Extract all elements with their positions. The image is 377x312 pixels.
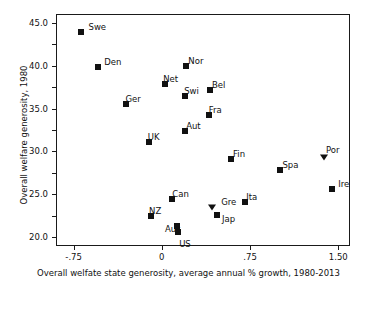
x-tick bbox=[250, 246, 251, 250]
y-tick-label: 40.0 bbox=[29, 61, 48, 71]
data-point-label: US bbox=[179, 240, 191, 249]
x-tick bbox=[74, 246, 75, 250]
y-tick-label: 25.0 bbox=[29, 189, 48, 199]
data-point-label: UK bbox=[148, 133, 160, 142]
data-point-label: Swi bbox=[184, 87, 199, 96]
y-tick bbox=[52, 130, 56, 131]
data-point-label: Bel bbox=[212, 81, 225, 90]
data-point-marker bbox=[78, 29, 84, 35]
y-tick bbox=[52, 66, 56, 67]
data-point-label: Jap bbox=[222, 215, 235, 224]
x-axis-title: Overall welfate state generosity, averag… bbox=[0, 268, 377, 278]
data-point-marker bbox=[95, 64, 101, 70]
data-point-label: Ire bbox=[338, 180, 349, 189]
data-point-label: Spa bbox=[282, 161, 298, 170]
x-tick-label: .75 bbox=[243, 252, 257, 262]
y-tick-label: 20.0 bbox=[29, 232, 48, 242]
y-tick-label: 45.0 bbox=[29, 18, 48, 28]
scatter-chart: SweDenNorNetSwiBelGerFraAutUKFinSpaPorIr… bbox=[0, 0, 377, 312]
y-tick bbox=[52, 87, 56, 88]
data-point-label: Ger bbox=[125, 95, 140, 104]
y-tick-label: 30.0 bbox=[29, 146, 48, 156]
data-point-label: Fin bbox=[233, 150, 245, 159]
data-point-marker bbox=[208, 205, 216, 211]
plot-area: SweDenNorNetSwiBelGerFraAutUKFinSpaPorIr… bbox=[56, 14, 350, 246]
data-point-label: Nor bbox=[188, 57, 203, 66]
plot-points-layer: SweDenNorNetSwiBelGerFraAutUKFinSpaPorIr… bbox=[57, 15, 349, 245]
data-point-label: Aut bbox=[186, 122, 201, 131]
data-point-label: Can bbox=[172, 190, 189, 199]
data-point-label: Fra bbox=[209, 106, 222, 115]
data-point-marker bbox=[320, 154, 328, 160]
y-tick bbox=[52, 216, 56, 217]
data-point-label: Ita bbox=[246, 193, 257, 202]
y-tick-label: 35.0 bbox=[29, 104, 48, 114]
y-tick bbox=[52, 109, 56, 110]
data-point-marker bbox=[329, 186, 335, 192]
x-tick bbox=[338, 246, 339, 250]
x-tick-label: -.75 bbox=[65, 252, 82, 262]
y-tick bbox=[52, 44, 56, 45]
y-tick bbox=[52, 173, 56, 174]
data-point-marker bbox=[175, 229, 181, 235]
data-point-label: NZ bbox=[149, 207, 161, 216]
data-point-label: Gre bbox=[221, 198, 236, 207]
y-tick bbox=[52, 23, 56, 24]
y-tick bbox=[52, 194, 56, 195]
x-tick bbox=[162, 246, 163, 250]
data-point-label: Den bbox=[104, 58, 121, 67]
data-point-label: Por bbox=[326, 146, 340, 155]
x-tick-label: 1.50 bbox=[329, 252, 348, 262]
x-tick-label: 0 bbox=[159, 252, 164, 262]
y-tick bbox=[52, 237, 56, 238]
y-axis-title: Overall welfare generosity, 1980 bbox=[19, 25, 29, 245]
data-point-marker bbox=[214, 212, 220, 218]
data-point-label: Swe bbox=[89, 23, 107, 32]
y-tick bbox=[52, 151, 56, 152]
data-point-label: Net bbox=[163, 75, 178, 84]
